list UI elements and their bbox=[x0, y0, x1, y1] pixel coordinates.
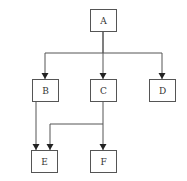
arrowhead-icon bbox=[100, 144, 107, 150]
arrowhead-icon bbox=[42, 73, 49, 79]
edge-a-to-d bbox=[103, 53, 162, 79]
edge-a-to-b bbox=[45, 31, 103, 79]
node-label: A bbox=[99, 16, 107, 26]
node-f: F bbox=[91, 151, 117, 173]
node-c: C bbox=[91, 80, 117, 102]
arrowhead-icon bbox=[47, 144, 54, 150]
node-b: B bbox=[33, 80, 59, 102]
node-d: D bbox=[150, 80, 176, 102]
node-e: E bbox=[32, 151, 58, 173]
arrowhead-icon bbox=[159, 73, 166, 79]
node-label: C bbox=[100, 86, 107, 96]
node-label: B bbox=[42, 86, 49, 96]
hierarchy-diagram: ABCDEF bbox=[0, 0, 187, 181]
node-label: F bbox=[100, 157, 106, 167]
edge-c-to-e bbox=[50, 101, 103, 150]
node-a: A bbox=[91, 10, 117, 32]
node-label: D bbox=[159, 86, 166, 96]
arrowhead-icon bbox=[100, 73, 107, 79]
arrowhead-icon bbox=[33, 144, 40, 150]
node-label: E bbox=[41, 157, 48, 167]
